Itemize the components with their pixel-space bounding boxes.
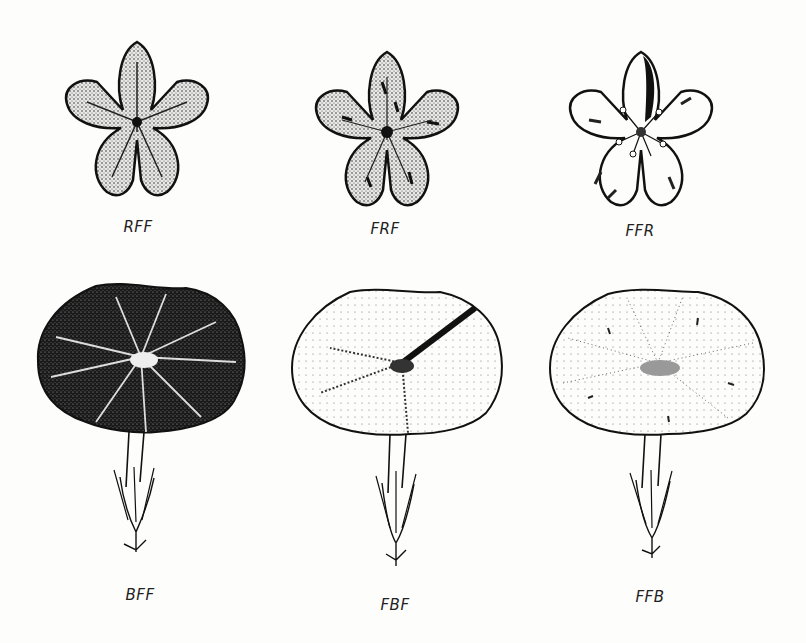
label-ffr: FFR bbox=[625, 222, 654, 240]
star-flower-icon bbox=[52, 34, 222, 204]
label-bff: BFF bbox=[125, 586, 154, 604]
star-flower-icon bbox=[556, 44, 726, 214]
funnel-flower-icon bbox=[548, 288, 770, 568]
label-fbf: FBF bbox=[380, 596, 409, 614]
label-ffb: FFB bbox=[635, 588, 664, 606]
label-frf: FRF bbox=[370, 220, 399, 238]
funnel-flower-icon bbox=[290, 288, 508, 573]
star-flower-icon bbox=[302, 44, 472, 214]
label-rff: RFF bbox=[123, 218, 152, 236]
funnel-flower-icon bbox=[36, 282, 251, 562]
